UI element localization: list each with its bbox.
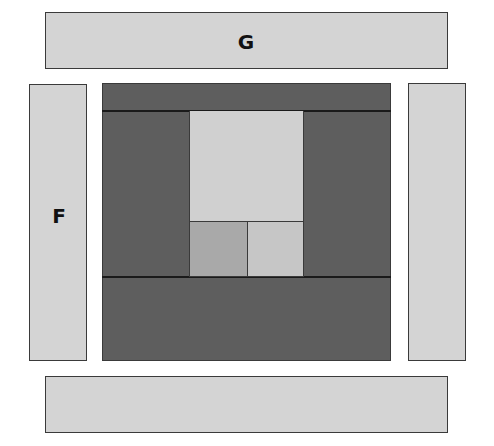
upper-inner-panel <box>189 111 304 222</box>
panel-label-f: F <box>52 206 66 226</box>
right-panel <box>408 83 466 361</box>
panel-label-g: G <box>238 32 254 52</box>
small-square-left <box>189 221 248 277</box>
bottom-panel <box>45 376 448 433</box>
small-square-right <box>247 221 304 277</box>
